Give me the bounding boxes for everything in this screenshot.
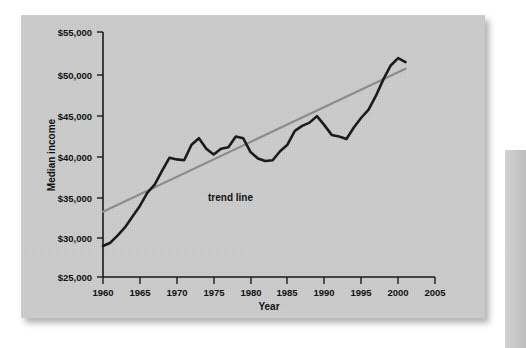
x-tick-label-1960: 1960 <box>92 287 113 298</box>
x-tick-label-1980: 1980 <box>240 287 261 298</box>
y-tick-label-50000: $50,000 <box>58 70 92 81</box>
y-tick-label-40000: $40,000 <box>58 152 92 163</box>
y-tick-label-55000: $55,000 <box>58 27 92 38</box>
x-tick-label-1970: 1970 <box>166 287 187 298</box>
x-axis-title: Year <box>258 301 279 312</box>
x-tick-label-1995: 1995 <box>350 287 372 298</box>
trend-line-annotation: trend line <box>208 192 253 203</box>
x-tick-label-1975: 1975 <box>203 287 225 298</box>
line-chart: $55,000 $50,000 $45,000 $40,000 $35,000 … <box>21 15 485 318</box>
y-tick-label-25000: $25,000 <box>58 272 92 283</box>
page-side-strip-gradient <box>505 150 526 348</box>
median-income-series-path <box>103 58 405 246</box>
y-axis-tick-labels: $55,000 $50,000 $45,000 $40,000 $35,000 … <box>58 27 92 283</box>
x-tick-label-1965: 1965 <box>129 287 151 298</box>
y-tick-label-35000: $35,000 <box>58 193 92 204</box>
x-tick-label-2005: 2005 <box>424 287 446 298</box>
y-axis-ticks <box>97 32 103 277</box>
x-tick-label-1990: 1990 <box>313 287 334 298</box>
x-axis-ticks <box>103 277 435 284</box>
y-tick-label-30000: $30,000 <box>58 233 92 244</box>
x-axis-tick-labels: 1960 1965 1970 1975 1980 1985 1990 1995 … <box>92 287 446 298</box>
x-tick-label-2000: 2000 <box>387 287 408 298</box>
axes-group <box>103 32 435 277</box>
x-tick-label-1985: 1985 <box>276 287 298 298</box>
y-axis-title: Median income <box>46 118 57 191</box>
chart-figure-panel: $55,000 $50,000 $45,000 $40,000 $35,000 … <box>21 15 485 318</box>
page-side-strip <box>505 150 526 348</box>
y-tick-label-45000: $45,000 <box>58 111 92 122</box>
